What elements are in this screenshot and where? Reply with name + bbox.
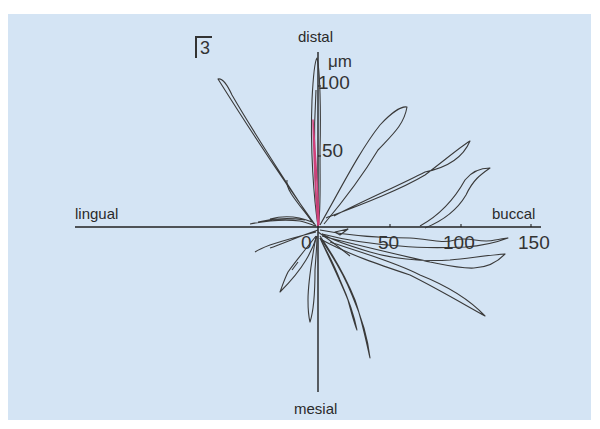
loop-mesio-buccal-long <box>322 234 505 268</box>
label-mesial: mesial <box>294 400 337 417</box>
x-tick-0: 0 <box>301 232 312 254</box>
loop-lingual-short <box>250 217 316 226</box>
unit-label: μm <box>328 52 352 72</box>
label-lingual: lingual <box>75 205 118 222</box>
loop-disto-lingual <box>218 79 316 226</box>
y-tick-50: 50 <box>322 140 343 162</box>
x-tick-100: 100 <box>443 232 475 254</box>
loop-disto-buccal-1 <box>320 107 407 225</box>
x-tick-150: 150 <box>518 232 550 254</box>
label-buccal: buccal <box>492 205 535 222</box>
tooth-number-label: 3 <box>195 36 212 58</box>
loop-mesial-2 <box>320 238 357 330</box>
x-tick-50: 50 <box>378 232 399 254</box>
label-distal: distal <box>298 28 333 45</box>
loop-disto-buccal-2 <box>326 141 470 218</box>
loop-disto-buccal-3 <box>420 168 490 228</box>
y-tick-100: 100 <box>318 72 350 94</box>
